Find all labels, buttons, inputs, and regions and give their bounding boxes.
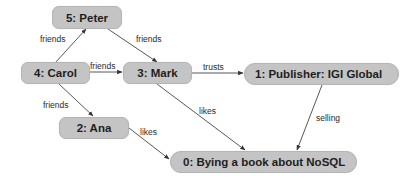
edge-label-mark-publisher: trusts [203,62,224,72]
edge-mark-book [157,84,245,150]
node-label: 0: Bying a book about NoSQL [183,156,345,168]
node-label: 3: Mark [137,67,177,79]
edge-label-carol-peter: friends [40,34,66,44]
node-publisher[interactable]: 1: Publisher: IGI Global [244,63,399,85]
node-book[interactable]: 0: Bying a book about NoSQL [170,151,357,173]
edge-label-carol-mark: friends [90,61,116,71]
edge-label-peter-mark: friends [136,34,162,44]
node-mark[interactable]: 3: Mark [123,62,192,84]
node-label: 5: Peter [66,12,108,24]
edge-label-ana-book: likes [140,127,157,137]
node-peter[interactable]: 5: Peter [52,6,122,29]
edge-label-mark-book: likes [199,106,216,116]
node-label: 1: Publisher: IGI Global [255,68,382,80]
node-label: 2: Ana [77,122,112,134]
node-label: 4: Carol [34,67,77,79]
edge-label-publisher-book: selling [316,113,340,123]
edge-label-carol-ana: friends [43,100,69,110]
node-carol[interactable]: 4: Carol [21,62,90,84]
node-ana[interactable]: 2: Ana [59,117,129,139]
